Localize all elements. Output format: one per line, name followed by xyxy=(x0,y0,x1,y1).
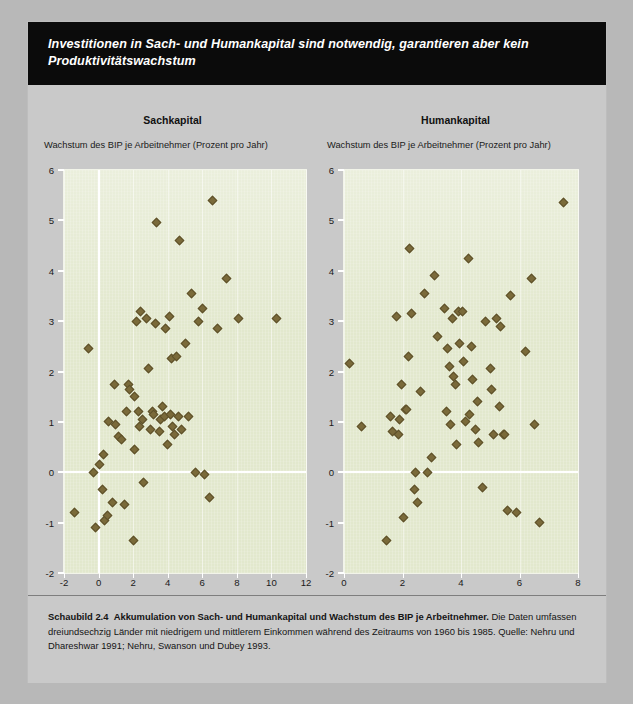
scatter-point xyxy=(529,419,539,429)
y-axis-tick-label: 1 xyxy=(312,416,334,427)
scatter-point xyxy=(109,379,119,389)
scatter-point xyxy=(154,427,164,437)
scatter-point xyxy=(204,492,214,502)
scatter-point xyxy=(481,316,491,326)
scatter-point xyxy=(392,311,402,321)
x-axis-tick-label: 0 xyxy=(331,577,357,588)
scatter-point xyxy=(474,437,484,447)
y-axis-tick xyxy=(338,421,344,423)
scatter-point xyxy=(94,460,104,470)
x-axis-tick-label: 2 xyxy=(120,577,146,588)
scatter-point xyxy=(450,379,460,389)
gridline-vertical xyxy=(578,170,579,573)
y-axis-tick xyxy=(338,320,344,322)
y-axis-tick xyxy=(58,270,64,272)
scatter-point xyxy=(190,467,200,477)
scatter-point xyxy=(403,351,413,361)
scatter-point xyxy=(430,271,440,281)
x-axis-tick-label: 6 xyxy=(189,577,215,588)
scatter-point xyxy=(145,424,155,434)
chart-panel-sachkapital: Sachkapital Wachstum des BIP je Arbeitne… xyxy=(28,85,317,595)
scatter-point xyxy=(381,535,391,545)
x-axis-tick-label: 0 xyxy=(86,577,112,588)
y-axis-tick-label: 3 xyxy=(312,316,334,327)
scatter-point xyxy=(443,344,453,354)
scatter-point xyxy=(107,498,117,508)
gridline-vertical xyxy=(344,170,345,573)
y-axis-tick xyxy=(58,522,64,524)
scatter-point xyxy=(427,452,437,462)
scatter-point xyxy=(130,392,140,402)
figure-page: Investitionen in Sach- und Humankapital … xyxy=(28,22,606,682)
gridline-vertical xyxy=(133,170,134,573)
scatter-point xyxy=(455,339,465,349)
chart-title-sachkapital: Sachkapital xyxy=(28,114,317,126)
scatter-point xyxy=(128,535,138,545)
scatter-point xyxy=(272,314,282,324)
figure-label: Schaubild 2.4 xyxy=(48,611,108,622)
y-axis-tick-label: 0 xyxy=(312,467,334,478)
x-axis-tick-label: -2 xyxy=(51,577,77,588)
scatter-point xyxy=(520,346,530,356)
headline-banner: Investitionen in Sach- und Humankapital … xyxy=(28,22,606,85)
scatter-point xyxy=(535,518,545,528)
scatter-point xyxy=(506,291,516,301)
x-axis-tick-label: 10 xyxy=(258,577,284,588)
scatter-point xyxy=(158,402,168,412)
scatter-point xyxy=(144,364,154,374)
gridline-vertical xyxy=(64,170,65,573)
y-axis-tick xyxy=(58,471,64,473)
gridline-vertical xyxy=(461,170,462,573)
headline-text: Investitionen in Sach- und Humankapital … xyxy=(48,36,568,70)
scatter-point xyxy=(151,319,161,329)
scatter-point xyxy=(152,218,162,228)
scatter-point xyxy=(222,273,232,283)
x-axis-tick-label: 2 xyxy=(390,577,416,588)
scatter-point xyxy=(208,195,218,205)
scatter-point xyxy=(463,253,473,263)
scatter-point xyxy=(409,485,419,495)
y-axis-tick-label: 3 xyxy=(32,316,54,327)
y-axis-tick-label: 2 xyxy=(312,366,334,377)
scatter-point xyxy=(468,374,478,384)
x-axis-tick-label: 4 xyxy=(448,577,474,588)
y-axis-tick-label: -1 xyxy=(32,517,54,528)
scatter-point xyxy=(164,311,174,321)
y-axis-tick xyxy=(338,371,344,373)
scatter-point xyxy=(444,362,454,372)
y-axis-tick xyxy=(338,169,344,171)
gridline-vertical xyxy=(306,170,307,573)
gridline-vertical xyxy=(271,170,272,573)
y-axis-tick xyxy=(58,371,64,373)
y-axis-tick-label: 2 xyxy=(32,366,54,377)
scatter-point xyxy=(503,505,513,515)
figure-caption-text: Schaubild 2.4 Akkumulation von Sach- und… xyxy=(48,610,584,654)
scatter-point xyxy=(488,430,498,440)
y-axis-tick-label: 5 xyxy=(312,215,334,226)
scatter-point xyxy=(399,513,409,523)
y-axis-tick xyxy=(338,219,344,221)
y-axis-caption-humankapital: Wachstum des BIP je Arbeitnehmer (Prozen… xyxy=(327,140,551,150)
scatter-point xyxy=(234,314,244,324)
scatter-point xyxy=(406,309,416,319)
y-axis-tick-label: 0 xyxy=(32,467,54,478)
scatter-point xyxy=(558,198,568,208)
scatter-point xyxy=(99,450,109,460)
zero-line-horizontal xyxy=(64,471,306,473)
scatter-point xyxy=(487,384,497,394)
figure-title: Akkumulation von Sach- und Humankapital … xyxy=(114,611,489,622)
scatter-point xyxy=(111,419,121,429)
y-axis-tick-label: -1 xyxy=(312,517,334,528)
scatter-point xyxy=(396,379,406,389)
x-axis-tick-label: 8 xyxy=(224,577,250,588)
y-axis-tick-label: 4 xyxy=(32,265,54,276)
plot-area-sachkapital: -2-10123456-2024681012 xyxy=(63,169,307,574)
scatter-point xyxy=(419,288,429,298)
plot-area-humankapital: -2-1012345602468 xyxy=(343,169,579,574)
scatter-point xyxy=(405,243,415,253)
scatter-point xyxy=(120,500,130,510)
x-axis-tick-label: 8 xyxy=(565,577,591,588)
zero-line-vertical xyxy=(98,170,100,573)
scatter-point xyxy=(441,407,451,417)
scatter-point xyxy=(175,236,185,246)
